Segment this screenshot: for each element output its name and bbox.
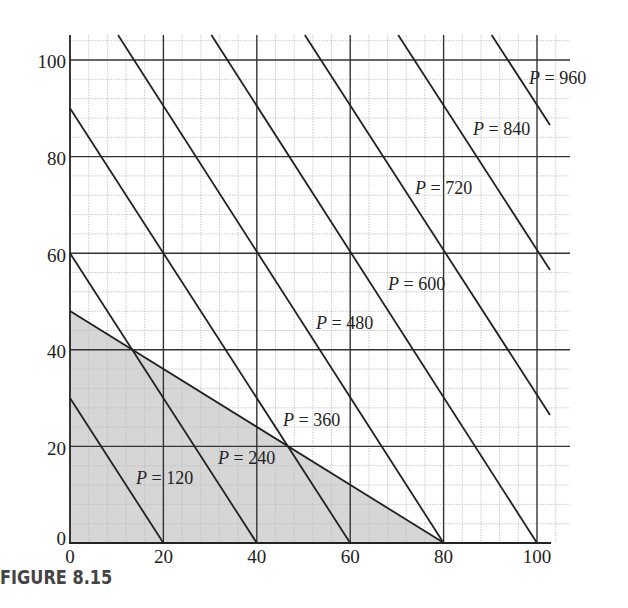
label-p360: P = 360 [282,410,340,430]
x-tick-100: 100 [523,546,552,567]
y-tick-60: 60 [47,245,66,266]
y-tick-80: 80 [47,148,66,169]
x-tick-80: 80 [434,546,453,567]
label-p840: P = 840 [472,119,530,139]
x-tick-20: 20 [154,546,173,567]
label-p720: P = 720 [414,178,472,198]
y-axis-ticks: 100 80 60 40 20 0 [38,51,67,549]
label-p120: P = 120 [135,468,193,488]
x-tick-40: 40 [247,546,266,567]
chart: P = 120 P = 240 P = 360 P = 480 P = 600 … [0,0,628,608]
line-p840 [398,35,550,270]
label-p480: P = 480 [315,313,373,333]
y-tick-100: 100 [38,51,67,72]
label-p960: P = 960 [528,68,586,88]
x-tick-0: 0 [65,546,75,567]
figure-caption: FIGURE 8.15 [0,566,112,588]
x-tick-60: 60 [341,546,360,567]
label-p600: P = 600 [387,274,445,294]
y-tick-40: 40 [47,341,66,362]
line-p720 [305,35,550,415]
x-axis-ticks: 0 20 40 60 80 100 [65,546,551,567]
label-p240: P = 240 [217,448,275,468]
y-tick-20: 20 [47,438,66,459]
